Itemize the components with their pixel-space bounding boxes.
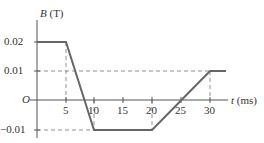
x-axis-label: t (ms) <box>231 95 257 106</box>
guide-lines <box>37 42 210 130</box>
x-tick-10: 10 <box>88 105 99 116</box>
x-tick-25: 25 <box>175 105 186 116</box>
y-tick-0-01: 0.01 <box>4 65 23 76</box>
data-series-line <box>37 42 226 130</box>
chart-plot <box>0 0 264 143</box>
x-axis-var: t <box>231 94 234 106</box>
y-axis-unit: (T) <box>49 7 63 19</box>
x-axis-unit: (ms) <box>237 94 257 106</box>
x-tick-5: 5 <box>63 105 69 116</box>
x-tick-15: 15 <box>117 105 128 116</box>
y-axis-var: B <box>40 7 47 19</box>
y-tick-neg-0-01: −0.01 <box>0 124 25 135</box>
axes <box>30 20 228 138</box>
y-origin-label: O <box>22 94 30 105</box>
y-axis-label: B (T) <box>40 8 64 19</box>
x-tick-20: 20 <box>146 105 157 116</box>
y-tick-0-02: 0.02 <box>4 36 23 47</box>
x-tick-30: 30 <box>204 105 215 116</box>
